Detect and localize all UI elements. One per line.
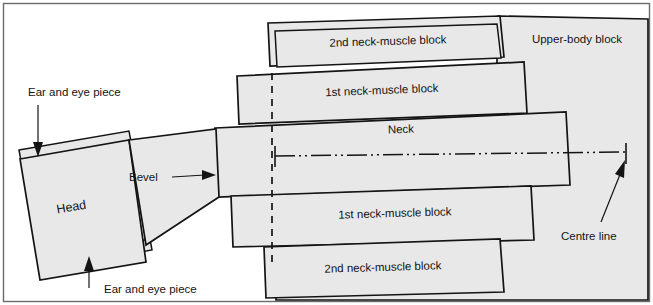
- upper-body-block-label: Upper-body block: [532, 33, 622, 45]
- ear-eye-piece-top-label: Ear and eye piece: [28, 86, 121, 98]
- bevel-label: Bevel: [129, 171, 158, 183]
- figure-container: Ear and eye piece Ear and eye piece Beve…: [0, 0, 653, 305]
- ear-eye-piece-bottom-label: Ear and eye piece: [104, 283, 197, 295]
- centre-line-label: Centre line: [561, 230, 617, 242]
- head-neck-assembly-diagram: Ear and eye piece Ear and eye piece Beve…: [0, 0, 653, 305]
- neck-label: Neck: [388, 123, 415, 136]
